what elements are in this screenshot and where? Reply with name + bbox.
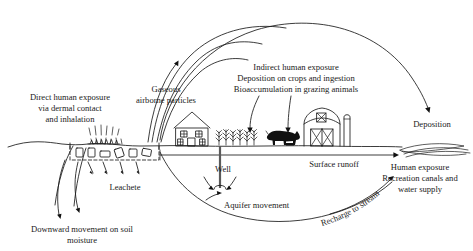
bioaccumulation-arrow (285, 96, 291, 133)
surface-runoff-flow (160, 150, 399, 160)
silo (344, 115, 350, 146)
indirect-exposure-line2: Deposition on crops and ingestion (237, 73, 355, 83)
stream-water-body (400, 144, 470, 157)
recharge-text: Recharge to stream (320, 188, 382, 228)
label-human-exposure-water: Human exposure Recreation canals and wat… (382, 162, 458, 194)
label-deposition: Deposition (413, 119, 451, 129)
downward-line1: Downward movement on soil (31, 224, 134, 234)
label-indirect-exposure: Indirect human exposure Deposition on cr… (234, 62, 359, 94)
farm-house (174, 112, 210, 146)
direct-exposure-line3: and inhalation (46, 114, 96, 124)
indirect-exposure-line3: Bioaccumulation in grazing animals (234, 84, 359, 94)
human-exposure-line3: water supply (398, 184, 443, 194)
deposition-on-crops-arrow (247, 96, 259, 133)
downward-line2: moisture (67, 235, 97, 245)
barn-building (304, 108, 340, 146)
label-recharge-to-stream: Recharge to stream (320, 188, 382, 228)
label-downward-movement: Downward movement on soil moisture (31, 224, 134, 245)
human-exposure-line1: Human exposure (391, 162, 450, 172)
crop-field (216, 130, 257, 146)
label-direct-exposure: Direct human exposure via dermal contact… (30, 92, 110, 124)
label-well: Well (215, 164, 232, 174)
gaseous-line2: airborne particles (136, 95, 197, 105)
label-surface-runoff: Surface runoff (309, 159, 359, 169)
indirect-exposure-line1: Indirect human exposure (253, 62, 339, 72)
label-gaseous-particles: Gaseous airborne particles (136, 84, 197, 105)
direct-exposure-line2: via dermal contact (38, 103, 102, 113)
label-aquifer-movement: Aquifer movement (224, 200, 290, 210)
human-exposure-line2: Recreation canals and (382, 173, 458, 183)
direct-exposure-line1: Direct human exposure (30, 92, 110, 102)
gaseous-line1: Gaseous (151, 84, 181, 94)
leachate-arrows (88, 162, 140, 175)
grazing-cow (266, 131, 300, 146)
vapor-emission-marks (89, 125, 119, 135)
diagram-canvas: Direct human exposure via dermal contact… (0, 0, 473, 251)
label-leachete: Leachete (109, 182, 140, 192)
landfill-pathway-svg: Direct human exposure via dermal contact… (0, 0, 473, 251)
